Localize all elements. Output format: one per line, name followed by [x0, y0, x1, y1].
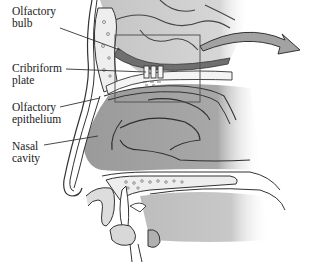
- olfactory-anatomy-diagram: Olfactory bulb Cribriform plate Olfactor…: [0, 0, 310, 272]
- label-olfactory-bulb: Olfactory bulb: [12, 5, 56, 29]
- label-olfactory-epithelium: Olfactory epithelium: [12, 101, 61, 125]
- diagram-illustration: [0, 0, 310, 272]
- cribriform-foramina: [144, 66, 163, 78]
- nasal-cavity-shape: [84, 84, 262, 171]
- nerve-fibers: [143, 82, 161, 85]
- oral-cavity: [140, 192, 270, 242]
- label-cribriform-plate: Cribriform plate: [12, 62, 62, 86]
- frontal-bone: [94, 8, 118, 92]
- face-contour: [64, 0, 92, 196]
- label-nasal-cavity: Nasal cavity: [12, 140, 40, 164]
